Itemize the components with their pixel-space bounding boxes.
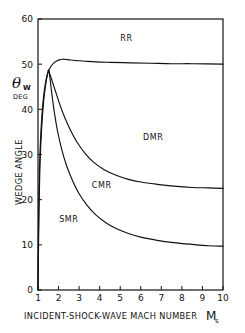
x-tick-label-3: 3: [76, 293, 82, 303]
y-tick-label-50: 50: [22, 60, 34, 70]
degrees-unit-label: DEG: [13, 93, 28, 101]
y-tick-label-10: 10: [22, 240, 34, 250]
y-tick-label-40: 40: [22, 105, 34, 115]
theta-subscript-w: W: [23, 84, 31, 92]
wedge-angle-vs-mach-number-chart: 12345678910 0102030405060 RRDMRCMRSMR θ …: [0, 0, 245, 333]
y-axis-symbol-group: θ W DEG: [12, 74, 31, 101]
transition-boundary-curves: [38, 59, 223, 290]
curve-series-0: [38, 59, 223, 290]
region-label-rr: RR: [120, 34, 132, 43]
y-axis-title: WEDGE ANGLE: [14, 139, 24, 205]
x-tick-label-4: 4: [97, 293, 103, 303]
x-axis-title: INCIDENT-SHOCK-WAVE MACH NUMBER: [24, 311, 197, 321]
x-tick-label-1: 1: [35, 293, 41, 303]
x-tick-label-10: 10: [217, 293, 229, 303]
region-label-dmr: DMR: [143, 133, 163, 142]
x-tick-label-9: 9: [200, 293, 206, 303]
mach-subscript-s: s: [215, 317, 219, 325]
chart-figure: 12345678910 0102030405060 RRDMRCMRSMR θ …: [0, 0, 245, 333]
x-tick-label-8: 8: [179, 293, 185, 303]
curve-series-1: [48, 70, 223, 188]
y-tick-label-0: 0: [27, 285, 33, 295]
y-tick-label-60: 60: [22, 14, 34, 24]
x-axis-title-group: INCIDENT-SHOCK-WAVE MACH NUMBER M s: [24, 309, 219, 325]
x-tick-label-2: 2: [56, 293, 62, 303]
x-tick-label-7: 7: [158, 293, 164, 303]
theta-symbol: θ: [12, 74, 21, 92]
x-axis-tick-labels: 12345678910: [35, 293, 229, 303]
x-tick-label-5: 5: [117, 293, 123, 303]
region-label-cmr: CMR: [92, 181, 112, 190]
region-label-smr: SMR: [59, 215, 78, 224]
x-tick-label-6: 6: [138, 293, 144, 303]
